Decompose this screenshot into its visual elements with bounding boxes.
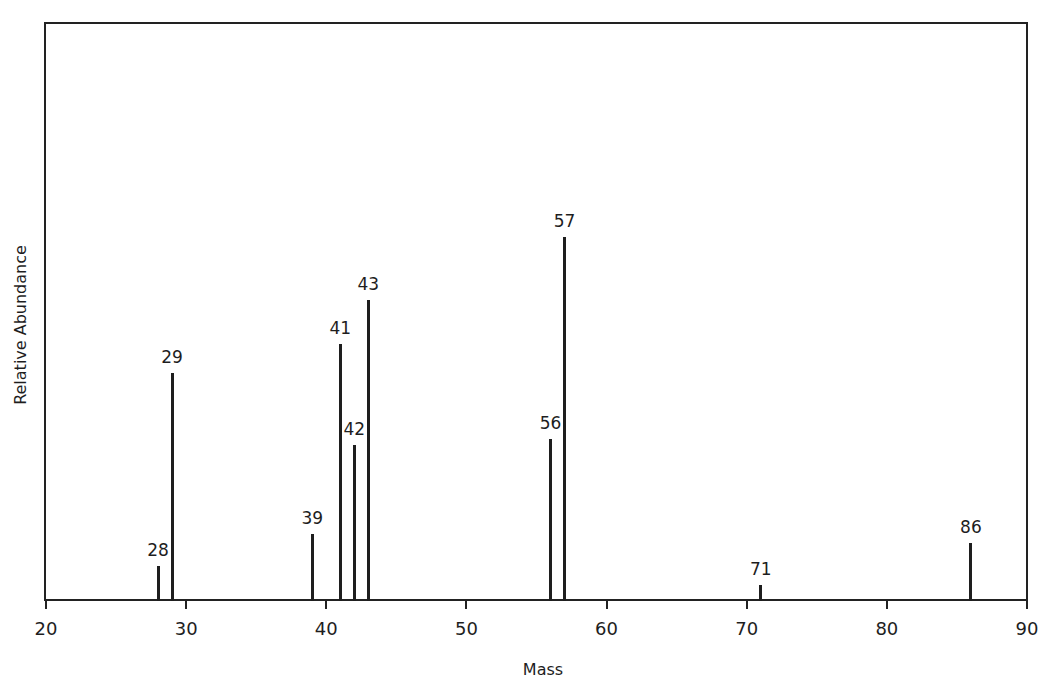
- peak-label: 56: [540, 413, 562, 433]
- peak-bar: [353, 445, 356, 601]
- mass-spectrum-chart: 28293941424356577186 2030405060708090 Ma…: [0, 0, 1052, 693]
- peak-label: 57: [554, 211, 576, 231]
- peak-bar: [549, 439, 552, 601]
- x-tick: [1026, 600, 1028, 609]
- x-tick: [606, 600, 608, 609]
- peak-label: 41: [329, 318, 351, 338]
- peak-label: 86: [960, 517, 982, 537]
- peak-label: 71: [750, 559, 772, 579]
- peak-bar: [339, 344, 342, 601]
- peak-label: 39: [301, 508, 323, 528]
- x-tick: [886, 600, 888, 609]
- x-tick: [465, 600, 467, 609]
- x-tick: [746, 600, 748, 609]
- x-tick-label: 40: [315, 618, 338, 639]
- peak-label: 28: [147, 540, 169, 560]
- x-tick-label: 20: [35, 618, 58, 639]
- x-tick-label: 70: [735, 618, 758, 639]
- peak-label: 42: [343, 419, 365, 439]
- x-axis-label: Mass: [523, 660, 563, 679]
- peak-bar: [367, 300, 370, 601]
- x-tick-label: 80: [875, 618, 898, 639]
- peak-label: 29: [161, 347, 183, 367]
- x-tick: [45, 600, 47, 609]
- x-tick-label: 30: [175, 618, 198, 639]
- peak-bar: [759, 585, 762, 601]
- x-tick-label: 90: [1016, 618, 1039, 639]
- peak-bar: [969, 543, 972, 601]
- peak-bar: [563, 237, 566, 601]
- peak-label: 43: [358, 274, 380, 294]
- x-tick: [185, 600, 187, 609]
- peak-bar: [311, 534, 314, 601]
- x-tick: [325, 600, 327, 609]
- peak-bar: [171, 373, 174, 601]
- x-tick-label: 50: [455, 618, 478, 639]
- y-axis-label: Relative Abundance: [11, 245, 30, 405]
- plot-area: [44, 22, 1028, 601]
- peak-bar: [157, 566, 160, 601]
- x-tick-label: 60: [595, 618, 618, 639]
